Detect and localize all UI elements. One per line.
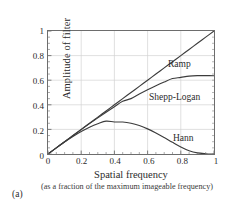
figure-panel: 00.20.40.60.81 00.20.40.60.81 Ramp Shepp… — [0, 0, 234, 209]
y-tick-label: 0.8 — [33, 51, 44, 61]
x-tick-label: 0.4 — [110, 156, 121, 166]
plot-area: 00.20.40.60.81 00.20.40.60.81 Ramp Shepp… — [47, 30, 215, 155]
x-tick-label: 1 — [214, 156, 219, 166]
panel-label: (a) — [12, 189, 23, 199]
y-tick-label: 0.2 — [33, 126, 44, 136]
series-label-shepp-logan: Shepp-Logan — [149, 92, 200, 102]
y-axis-label: Amplitude of filter — [61, 0, 72, 121]
y-tick-label: 0.6 — [33, 76, 44, 86]
x-axis-sublabel: (as a fraction of the maximum imageable … — [20, 182, 234, 191]
x-tick-label: 0 — [46, 156, 51, 166]
y-tick-label: 0 — [40, 151, 45, 161]
series-label-hann: Hann — [173, 133, 194, 143]
y-tick-label: 1 — [40, 26, 45, 36]
y-tick-label: 0.4 — [33, 101, 44, 111]
x-tick-label: 0.6 — [143, 156, 154, 166]
x-tick-label: 0.2 — [76, 156, 87, 166]
x-tick-label: 0.8 — [177, 156, 188, 166]
series-label-ramp: Ramp — [168, 59, 191, 69]
x-axis-label: Spatial frequency — [47, 169, 215, 180]
